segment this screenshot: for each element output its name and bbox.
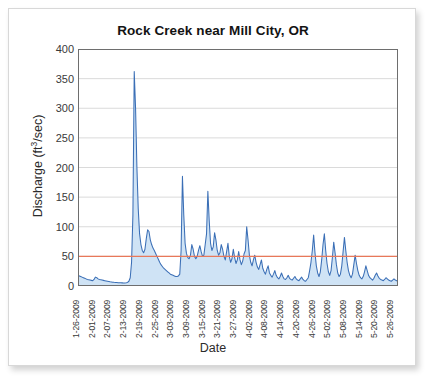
y-tick-label: 400	[38, 43, 74, 55]
y-axis-tick-labels: 050100150200250300350400	[36, 49, 74, 286]
x-tick-label: 3-21-2009	[212, 300, 222, 338]
x-tick-label: 5-08-2009	[338, 300, 348, 338]
y-tick-label: 300	[38, 102, 74, 114]
discharge-line	[78, 72, 398, 283]
x-tick-label: 3-15-2009	[197, 300, 207, 338]
x-tick-label: 5-20-2009	[369, 300, 379, 338]
x-tick-label: 5-02-2009	[322, 300, 332, 338]
plot-area	[78, 49, 398, 286]
y-tick-label: 250	[38, 132, 74, 144]
discharge-line-chart	[78, 49, 398, 286]
x-tick-label: 2-13-2009	[118, 300, 128, 338]
y-tick-label: 150	[38, 191, 74, 203]
x-tick-label: 5-14-2009	[354, 300, 364, 338]
chart-title: Rock Creek near Mill City, OR	[9, 23, 417, 38]
x-tick-label: 4-02-2009	[244, 300, 254, 338]
x-tick-label: 4-14-2009	[275, 300, 285, 338]
x-tick-label: 4-20-2009	[291, 300, 301, 338]
x-axis-title: Date	[9, 341, 417, 355]
x-axis-tick-labels: 1-26-20092-01-20092-07-20092-13-20092-19…	[78, 288, 398, 338]
y-tick-label: 200	[38, 162, 74, 174]
y-tick-label: 100	[38, 221, 74, 233]
gridlines	[78, 79, 398, 257]
y-tick-label: 50	[38, 250, 74, 262]
x-tick-label: 5-26-2009	[385, 300, 395, 338]
figure-card: Rock Creek near Mill City, OR Discharge …	[8, 8, 416, 366]
x-tick-label: 2-01-2009	[87, 300, 97, 338]
x-tick-label: 4-08-2009	[259, 300, 269, 338]
x-tick-label: 3-09-2009	[181, 300, 191, 338]
x-tick-label: 4-26-2009	[307, 300, 317, 338]
x-tick-label: 2-19-2009	[134, 300, 144, 338]
x-tick-label: 1-26-2009	[71, 300, 81, 338]
y-tick-label: 350	[38, 73, 74, 85]
x-tick-label: 3-03-2009	[165, 300, 175, 338]
x-tick-label: 2-25-2009	[150, 300, 160, 338]
x-tick-label: 2-07-2009	[102, 300, 112, 338]
y-tick-label: 0	[38, 280, 74, 292]
x-tick-label: 3-27-2009	[228, 300, 238, 338]
